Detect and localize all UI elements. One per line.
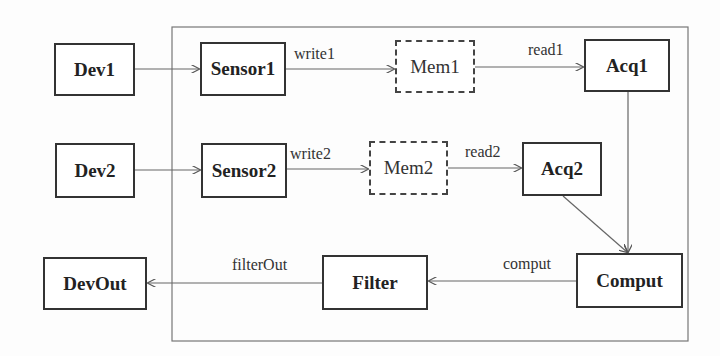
edge-label-read2: read2 — [465, 143, 501, 161]
node-acq2-label: Acq2 — [541, 158, 583, 180]
node-sensor2-label: Sensor2 — [212, 160, 276, 182]
edge-label-write1: write1 — [294, 45, 335, 63]
diagram-canvas: Dev1 Dev2 Sensor1 Sensor2 Mem1 Mem2 Acq1… — [0, 0, 720, 356]
node-comput-label: Comput — [596, 270, 663, 292]
node-comput: Comput — [576, 253, 683, 308]
edge-label-read1: read1 — [528, 41, 564, 59]
node-mem2: Mem2 — [369, 141, 448, 195]
node-dev1-label: Dev1 — [74, 59, 115, 81]
edge-label-filterout: filterOut — [232, 256, 287, 274]
node-mem1-label: Mem1 — [410, 56, 460, 78]
node-filter: Filter — [322, 255, 428, 310]
edge-acq2-comput — [563, 196, 627, 252]
node-acq1: Acq1 — [584, 39, 670, 92]
node-sensor1-label: Sensor1 — [211, 58, 275, 80]
edge-label-write2: write2 — [290, 145, 331, 163]
node-sensor1: Sensor1 — [200, 42, 286, 96]
node-dev1: Dev1 — [54, 43, 135, 96]
edge-label-comput: comput — [503, 255, 551, 273]
node-sensor2: Sensor2 — [201, 143, 287, 198]
node-devout-label: DevOut — [63, 273, 126, 295]
node-mem1: Mem1 — [395, 40, 475, 93]
node-dev2-label: Dev2 — [74, 160, 115, 182]
node-mem2-label: Mem2 — [384, 157, 434, 179]
node-acq2: Acq2 — [522, 142, 602, 196]
node-dev2: Dev2 — [55, 143, 135, 198]
node-acq1-label: Acq1 — [606, 55, 648, 77]
node-devout: DevOut — [43, 257, 147, 310]
node-filter-label: Filter — [352, 272, 397, 294]
